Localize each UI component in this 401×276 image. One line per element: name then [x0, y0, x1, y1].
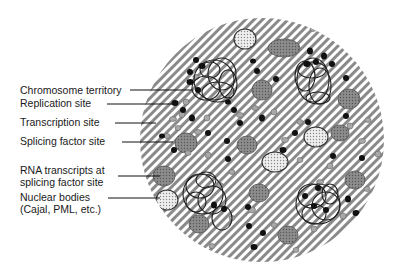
nucleus-diagram: [0, 0, 401, 276]
